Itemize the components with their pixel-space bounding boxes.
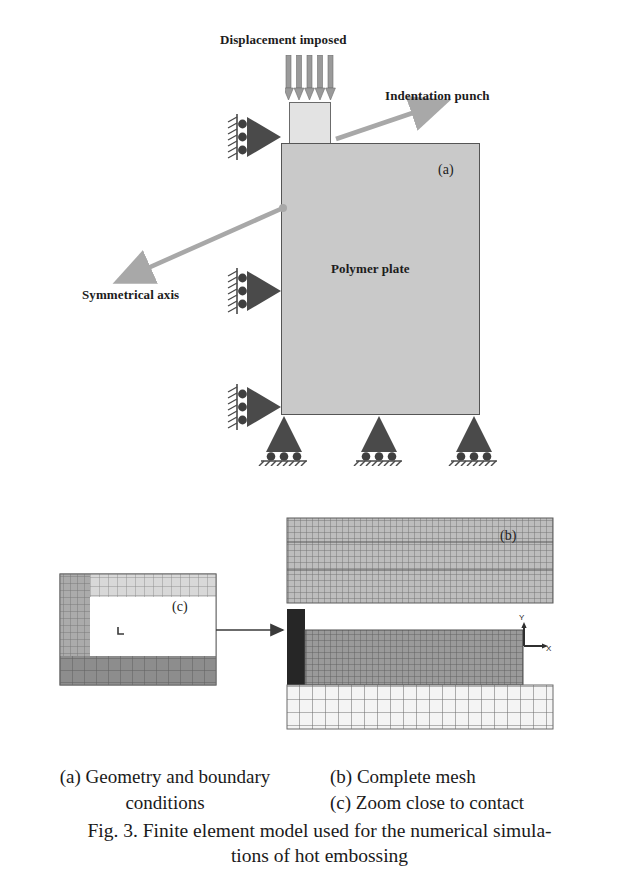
polymer-mesh-block: [305, 630, 523, 685]
indentation-punch-body: [289, 102, 331, 144]
subcaption-a-line2: conditions: [0, 792, 330, 814]
panel-a-geometry-boundary-conditions: Displacement imposed: [0, 0, 639, 478]
symmetrical-axis-label: Symmetrical axis: [82, 287, 179, 303]
polymer-plate-body: [281, 143, 480, 415]
roller-support-bottom-2: [353, 414, 415, 466]
displacement-imposed-label: Displacement imposed: [220, 32, 347, 48]
support-mesh-block: [287, 685, 553, 729]
axis-label-y: Y: [519, 613, 525, 622]
panel-b-tag: (b): [500, 528, 517, 544]
roller-support-left-lower: [226, 266, 284, 316]
punch-block-mesh: [287, 609, 305, 685]
panel-c-tag: (c): [172, 599, 188, 615]
figure-3: Displacement imposed: [0, 0, 639, 882]
figure-caption-line2: tions of hot embossing: [0, 843, 639, 868]
polymer-plate-label: Polymer plate: [331, 261, 410, 277]
axis-label-x: X: [546, 644, 552, 653]
axis-indicator: Y X: [519, 613, 552, 653]
figure-caption-line1: Fig. 3. Finite element model used for th…: [0, 818, 639, 843]
panel-c-zoom-close-to-contact: (c): [60, 574, 216, 685]
figure-caption-area: (a) Geometry and boundary (b) Complete m…: [0, 766, 639, 868]
panel-a-tag: (a): [438, 162, 454, 178]
panel-b-complete-mesh: (b) Y X: [0, 478, 639, 768]
roller-support-left-upper: [226, 112, 284, 162]
mesh-figures: (b) Y X: [0, 478, 639, 768]
subcaption-a-line1: (a) Geometry and boundary: [0, 766, 330, 788]
roller-support-bottom-1: [258, 414, 320, 466]
subcaption-c: (c) Zoom close to contact: [330, 792, 639, 814]
subcaption-b: (b) Complete mesh: [330, 766, 639, 788]
indentation-punch-label: Indentation punch: [385, 88, 490, 104]
roller-support-bottom-3: [448, 414, 510, 466]
